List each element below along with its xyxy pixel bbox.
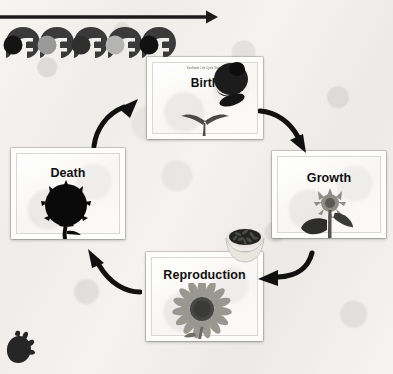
arrow-death-to-birth: [88, 96, 144, 148]
life-cycle-diagram: Death S: [0, 0, 393, 374]
card-growth[interactable]: Growth: [272, 151, 386, 238]
budding-plant-art: [272, 188, 386, 238]
silhouette-1: [4, 27, 41, 58]
card-birth[interactable]: Sunflower Life Cycle Stages Birth: [147, 57, 263, 139]
arrow-reproduction-to-death: [82, 246, 142, 298]
silhouette-3: [72, 27, 109, 58]
grayscale-silhouette-strip: [0, 24, 180, 60]
silhouette-4: [106, 27, 143, 58]
silhouette-5: [140, 27, 177, 58]
silhouette-2: [38, 27, 75, 58]
sprout-seedling-art: [147, 105, 263, 139]
card-death[interactable]: Death: [11, 148, 125, 239]
seed-pod-art: [207, 62, 259, 108]
arrow-growth-to-reproduction: [256, 248, 316, 298]
sunflower-bloom-art: [146, 283, 263, 341]
withered-seedhead-art: [11, 177, 125, 239]
arrow-birth-to-growth: [258, 103, 316, 155]
corner-silhouette: [2, 330, 36, 366]
card-growth-title: Growth: [272, 171, 386, 185]
